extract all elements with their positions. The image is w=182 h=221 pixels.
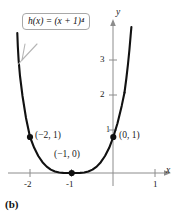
- point-marker-0-1: [110, 134, 116, 140]
- callout-leader-line: [19, 44, 37, 64]
- x-axis-label: x: [166, 166, 170, 176]
- point-label-0-1: (0, 1): [119, 131, 140, 141]
- graph-figure: h(x) = (x + 1)⁴ x y -2 -1 1 2 3 (−2, 1) …: [0, 0, 182, 221]
- point-label-minus2-1: (−2, 1): [35, 131, 61, 141]
- point-marker-minus1-0: [69, 170, 75, 176]
- x-tick-label-1: 1: [153, 180, 158, 189]
- y-axis: [110, 19, 116, 186]
- y-tick-label-1: 1: [106, 126, 110, 134]
- function-label-callout: h(x) = (x + 1)⁴: [22, 13, 90, 30]
- x-tick-label-minus2: -2: [24, 180, 32, 189]
- y-tick-label-3: 3: [100, 55, 105, 64]
- point-marker-minus2-1: [27, 134, 33, 140]
- y-tick-label-2: 2: [100, 90, 105, 99]
- function-expression-text: h(x) = (x + 1)⁴: [28, 16, 84, 26]
- y-axis-label: y: [116, 8, 120, 18]
- x-tick-label-minus1: -1: [66, 180, 74, 189]
- point-label-minus1-0: (−1, 0): [54, 150, 80, 160]
- figure-caption: (b): [5, 198, 18, 210]
- function-curve-right-tail: [125, 27, 132, 93]
